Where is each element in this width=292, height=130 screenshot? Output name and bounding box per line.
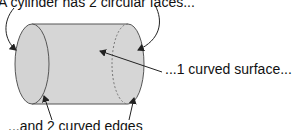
curved-edges-label: ...and 2 curved edges [8,119,143,130]
curved-surface-label: ...1 curved surface... [165,62,292,76]
cylinder-left-face [15,24,49,104]
arrow-left-face [6,8,16,50]
circular-faces-label: A cylinder has 2 circular faces... [0,0,195,9]
